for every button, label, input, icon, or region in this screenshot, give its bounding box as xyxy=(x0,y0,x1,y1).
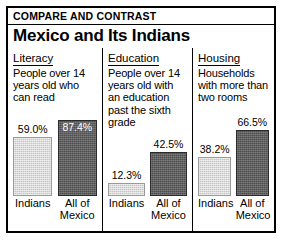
kicker-band: COMPARE AND CONTRAST xyxy=(8,8,274,25)
bar-group: 38.2% 66.5% xyxy=(198,113,269,196)
bar-label-group: Indians All of Mexico xyxy=(13,197,97,222)
bar-indians xyxy=(198,157,231,196)
bar-indians xyxy=(108,183,145,196)
column-title: Education xyxy=(108,52,159,66)
bar-group: 59.0% 87.4% xyxy=(13,113,97,196)
bar-slot-all-of-mexico: 42.5% xyxy=(150,113,187,196)
bar-slot-indians: 38.2% xyxy=(198,113,231,196)
bar-label-all-of-mexico: All of Mexico xyxy=(236,197,269,222)
bar-value-indians: 59.0% xyxy=(13,124,52,137)
column-title: Literacy xyxy=(13,52,53,66)
bar-all-of-mexico: 87.4% xyxy=(58,120,97,196)
bar-label-all-of-mexico: All of Mexico xyxy=(58,197,97,222)
bar-value-indians: 12.3% xyxy=(108,170,145,183)
chart-literacy: 59.0% 87.4% Indians All of xyxy=(13,113,97,231)
chart-housing: 38.2% 66.5% Indians All of Mexico xyxy=(198,113,269,231)
bar-value-all-of-mexico: 87.4% xyxy=(59,122,96,134)
bar-all-of-mexico xyxy=(236,130,269,196)
bar-label-line1: Indians xyxy=(13,197,52,209)
column-description: Households with more than two rooms xyxy=(198,67,269,104)
bar-slot-all-of-mexico: 66.5% xyxy=(236,113,269,196)
page-title: Mexico and Its Indians xyxy=(13,27,269,45)
bar-label-line1: All of xyxy=(236,197,269,209)
bar-label-line1: All of xyxy=(150,197,187,209)
bar-label-group: Indians All of Mexico xyxy=(108,197,187,222)
bar-slot-indians: 59.0% xyxy=(13,113,52,196)
bar-label-indians: Indians xyxy=(198,197,231,222)
bar-value-all-of-mexico: 66.5% xyxy=(236,117,269,130)
bar-slot-all-of-mexico: 87.4% xyxy=(58,113,97,196)
column-housing: Housing Households with more than two ro… xyxy=(192,48,274,231)
column-description: People over 14 years old who can read xyxy=(13,67,97,104)
bar-label-all-of-mexico: All of Mexico xyxy=(150,197,187,222)
infographic-panel: COMPARE AND CONTRAST Mexico and Its Indi… xyxy=(6,6,276,233)
bar-label-indians: Indians xyxy=(13,197,52,222)
column-literacy: Literacy People over 14 years old who ca… xyxy=(8,48,102,231)
bar-slot-indians: 12.3% xyxy=(108,113,145,196)
bar-value-all-of-mexico: 42.5% xyxy=(150,139,187,152)
columns-container: Literacy People over 14 years old who ca… xyxy=(8,48,274,231)
bar-label-line1: All of xyxy=(58,197,97,209)
bar-label-line2: Mexico xyxy=(58,209,97,221)
bar-label-line1: Indians xyxy=(108,197,145,209)
bar-group: 12.3% 42.5% xyxy=(108,113,187,196)
bar-indians xyxy=(13,137,52,196)
bar-label-indians: Indians xyxy=(108,197,145,222)
column-title: Housing xyxy=(198,52,240,66)
bar-label-group: Indians All of Mexico xyxy=(198,197,269,222)
bar-all-of-mexico xyxy=(150,152,187,196)
column-education: Education People over 14 years old with … xyxy=(102,48,192,231)
kicker-label: COMPARE AND CONTRAST xyxy=(13,11,156,22)
bar-value-indians: 38.2% xyxy=(198,144,231,157)
chart-education: 12.3% 42.5% Indians All of Mexico xyxy=(108,113,187,231)
headline-band: Mexico and Its Indians xyxy=(8,25,274,46)
bar-label-line2: Mexico xyxy=(236,209,269,221)
bar-label-line1: Indians xyxy=(198,197,231,209)
bar-label-line2: Mexico xyxy=(150,209,187,221)
